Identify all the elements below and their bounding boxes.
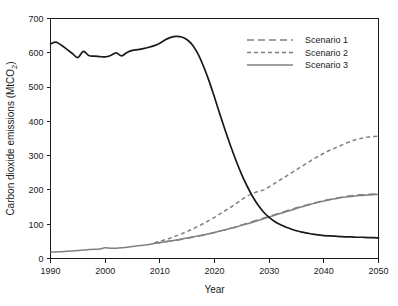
- x-tick-label: 2040: [314, 266, 334, 276]
- series-line-scenario-2: [154, 136, 378, 243]
- y-tick-label: 200: [28, 185, 43, 195]
- series-line-scenario-3: [51, 194, 379, 252]
- y-tick-label: 300: [28, 151, 43, 161]
- y-axis-title-tail: ): [5, 61, 16, 64]
- y-tick-label: 0: [38, 254, 43, 264]
- legend-label-scenario-3: Scenario 3: [305, 60, 348, 70]
- legend: Scenario 1Scenario 2Scenario 3: [247, 35, 348, 70]
- legend-label-scenario-1: Scenario 1: [305, 35, 348, 45]
- legend-label-scenario-2: Scenario 2: [305, 48, 348, 58]
- legend-item-scenario-3: Scenario 3: [247, 60, 348, 70]
- y-tick-label: 600: [28, 48, 43, 58]
- x-tick-group: 1990200020102020203020402050: [40, 259, 388, 276]
- x-tick-label: 2050: [368, 266, 388, 276]
- x-tick-label: 1990: [40, 266, 60, 276]
- y-tick-group: 0100200300400500600700: [28, 14, 50, 264]
- x-axis-title: Year: [204, 284, 225, 295]
- y-axis-title-main: Carbon dioxide emissions (MtCO: [5, 69, 16, 216]
- chart-container: 0100200300400500600700199020002010202020…: [0, 0, 398, 306]
- y-axis-title: Carbon dioxide emissions (MtCO2): [5, 61, 19, 215]
- legend-item-scenario-2: Scenario 2: [247, 48, 348, 58]
- y-tick-label: 400: [28, 117, 43, 127]
- x-tick-label: 2030: [259, 266, 279, 276]
- x-tick-label: 2020: [204, 266, 224, 276]
- x-tick-label: 2000: [95, 266, 115, 276]
- y-tick-label: 700: [28, 14, 43, 24]
- x-tick-label: 2010: [150, 266, 170, 276]
- co2-emissions-line-chart: 0100200300400500600700199020002010202020…: [0, 0, 398, 306]
- legend-item-scenario-1: Scenario 1: [247, 35, 348, 45]
- y-tick-label: 100: [28, 220, 43, 230]
- y-tick-label: 500: [28, 82, 43, 92]
